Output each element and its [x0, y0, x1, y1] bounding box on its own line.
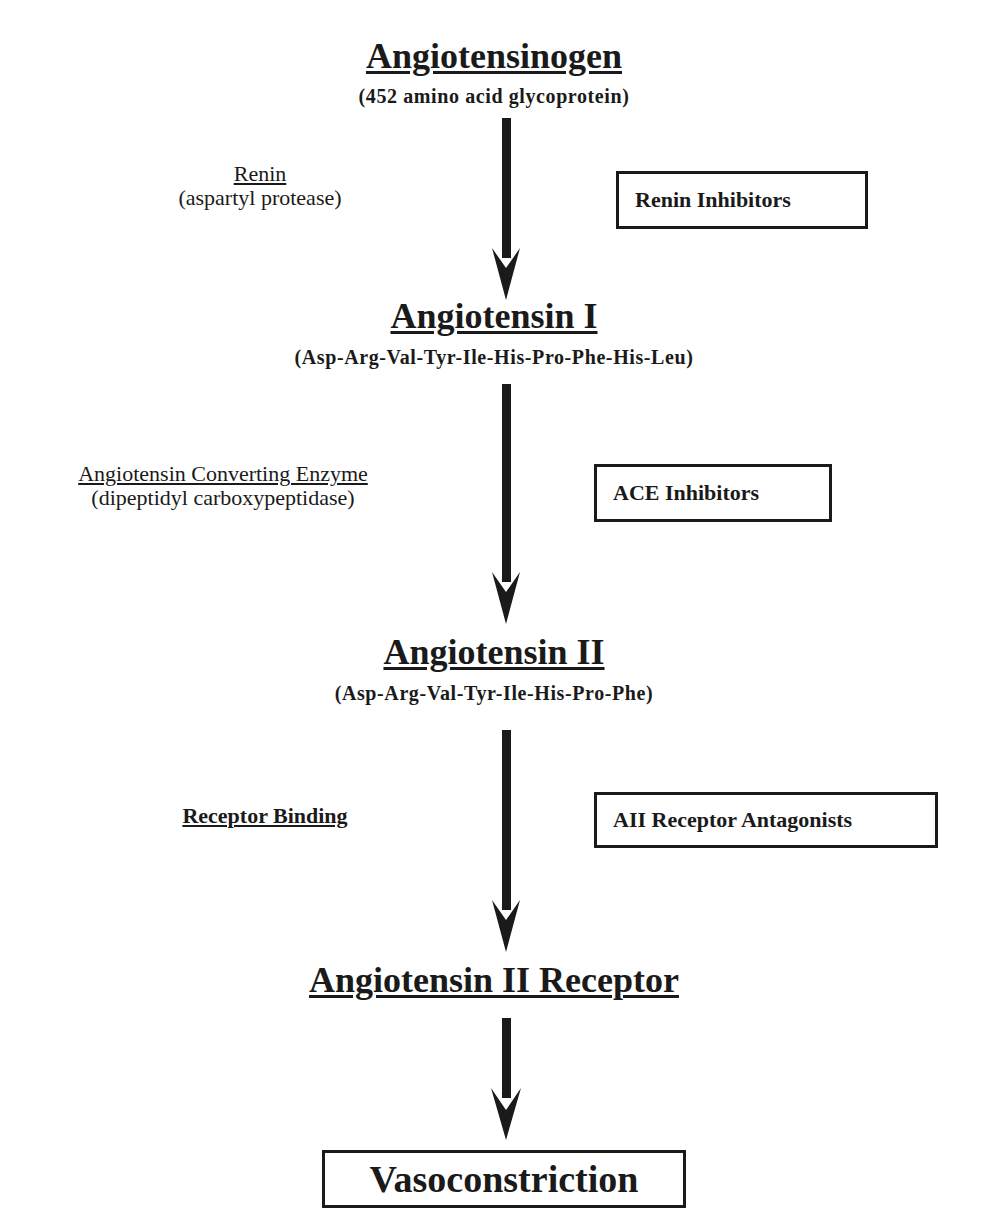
enzyme-name: Angiotensin Converting Enzyme — [18, 462, 428, 486]
enzyme-name: Receptor Binding — [160, 804, 370, 828]
enzyme-label-ace: Angiotensin Converting Enzyme (dipeptidy… — [18, 462, 428, 510]
inhibitor-box-ace: ACE Inhibitors — [594, 464, 832, 522]
node-title-angiotensin-1: Angiotensin I — [0, 296, 988, 336]
arrow-down-icon — [486, 730, 526, 952]
enzyme-detail: (dipeptidyl carboxypeptidase) — [18, 486, 428, 510]
enzyme-label-receptor-binding: Receptor Binding — [160, 804, 370, 828]
inhibitor-box-aii-antagonists: AII Receptor Antagonists — [594, 792, 938, 848]
enzyme-label-renin: Renin (aspartyl protease) — [150, 162, 370, 210]
enzyme-name: Renin — [150, 162, 370, 186]
inhibitor-box-renin: Renin Inhibitors — [616, 171, 868, 229]
node-title-angiotensin-2-receptor: Angiotensin II Receptor — [0, 960, 988, 1000]
arrow-down-icon — [486, 118, 526, 300]
node-subtitle-angiotensin-1: (Asp-Arg-Val-Tyr-Ile-His-Pro-Phe-His-Leu… — [0, 345, 988, 369]
arrow-down-icon — [486, 384, 526, 624]
node-title-angiotensinogen: Angiotensinogen — [0, 36, 988, 76]
node-subtitle-angiotensinogen: (452 amino acid glycoprotein) — [0, 84, 988, 108]
enzyme-detail: (aspartyl protease) — [150, 186, 370, 210]
node-title-angiotensin-2: Angiotensin II — [0, 632, 988, 672]
arrow-down-icon — [486, 1018, 526, 1140]
node-subtitle-angiotensin-2: (Asp-Arg-Val-Tyr-Ile-His-Pro-Phe) — [0, 681, 988, 705]
outcome-box-vasoconstriction: Vasoconstriction — [322, 1150, 686, 1208]
